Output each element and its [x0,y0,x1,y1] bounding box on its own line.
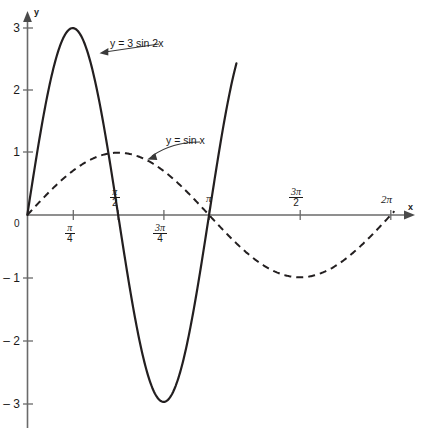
x-tick-label-3pi-over-2: 3π 2 [289,187,312,209]
y-tick-label-neg1: – 1 [1,272,20,284]
y-axis [23,11,32,428]
x-tick-label-pi: π [206,193,212,204]
x-tick-label-pi-over-2: π 2 [110,187,127,209]
curve-annotation-3sin2x: y = 3 sin 2x [110,38,163,49]
x-axis [27,211,415,220]
x-tick-label-pi-over-4: π 4 [65,223,82,245]
y-tick-label-neg3: – 3 [1,398,20,410]
y-tick-label-1: 1 [8,146,20,158]
y-tick-label-neg2: – 2 [1,335,20,347]
x-tick-label-2pi: 2π [381,194,392,205]
plot-canvas [0,0,428,430]
y-tick-label-2: 2 [8,84,20,96]
y-tick-label-3: 3 [8,22,20,34]
sine-curves-figure: y x 0 3 2 1 – 1 – 2 – 3 π 4 π 2 3π 4 π 3… [0,0,428,430]
x-axis-label: x [408,203,413,212]
origin-label: 0 [14,219,20,229]
x-tick-label-3pi-over-4: 3π 4 [153,223,176,245]
curve-annotation-sinx: y = sin x [166,135,205,146]
y-axis-label: y [34,8,39,17]
